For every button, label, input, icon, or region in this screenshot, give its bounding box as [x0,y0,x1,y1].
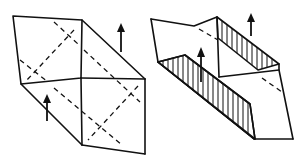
top-ridge-edge [82,20,145,79]
crease-line [20,60,48,82]
hidden-edge [199,29,218,40]
hatching [163,55,248,139]
upper-hatched-flap [217,17,279,70]
middle-edge [219,70,279,77]
middle-edge [81,78,145,79]
top-face [13,16,82,84]
arrowhead-icon [117,23,125,32]
hatching [222,20,272,71]
step-2-figure [151,13,293,139]
step-1-figure [13,16,145,154]
bottom-left-edge [21,84,82,145]
crease-line [54,88,122,145]
center-vertical-edge [217,17,219,77]
hidden-edge [262,78,282,92]
crease-line [54,22,78,44]
left-edge [151,19,158,62]
diagram-svg [0,0,303,165]
arrowhead-icon [197,47,205,57]
origami-diagram [0,0,303,165]
right-edge [279,64,293,139]
bottom-edge [82,145,145,154]
crease-line [84,50,140,102]
crease-line [27,30,74,80]
crease-line [88,86,138,140]
top-edge [151,17,217,26]
arrowhead-icon [247,13,255,22]
arrowhead-icon [43,94,51,103]
